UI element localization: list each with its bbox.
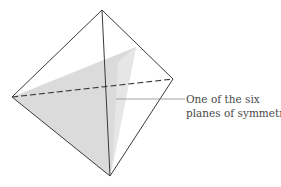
annotation-label: One of the six planes of symmetry [186,92,281,120]
annotation-line-1: One of the six [186,92,281,106]
annotation-line-2: planes of symmetry [186,106,281,120]
